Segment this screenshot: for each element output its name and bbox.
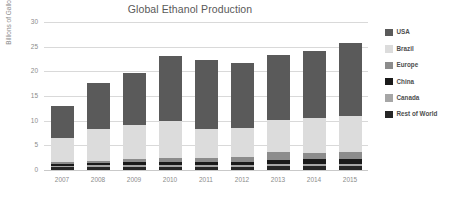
- bar-segment-rest-of-world[interactable]: [87, 167, 110, 170]
- bar-segment-brazil[interactable]: [51, 138, 74, 163]
- bar-segment-usa[interactable]: [51, 106, 74, 138]
- bar-segment-canada[interactable]: [267, 164, 290, 166]
- gridline-25: [44, 47, 368, 48]
- bar-2013[interactable]: [267, 55, 290, 170]
- bar-segment-canada[interactable]: [87, 165, 110, 166]
- x-tick-label-2008: 2008: [78, 176, 118, 183]
- x-tick-label-2015: 2015: [330, 176, 370, 183]
- bar-2010[interactable]: [159, 56, 182, 170]
- bar-segment-rest-of-world[interactable]: [267, 166, 290, 170]
- bar-segment-canada[interactable]: [339, 164, 362, 166]
- bar-segment-usa[interactable]: [123, 73, 146, 126]
- bar-segment-brazil[interactable]: [87, 129, 110, 161]
- y-tick-label-0: 0: [8, 167, 38, 174]
- legend-swatch-icon: [385, 62, 393, 70]
- legend-item-rest-of-world[interactable]: Rest of World: [385, 110, 457, 119]
- bar-segment-canada[interactable]: [231, 165, 254, 167]
- y-tick-label-20: 20: [8, 68, 38, 75]
- bar-segment-china[interactable]: [231, 162, 254, 164]
- bar-segment-rest-of-world[interactable]: [231, 167, 254, 170]
- bar-segment-usa[interactable]: [339, 43, 362, 116]
- legend-item-label: China: [397, 79, 415, 85]
- bar-segment-canada[interactable]: [159, 165, 182, 167]
- x-tick-label-2010: 2010: [150, 176, 190, 183]
- plot-area: [44, 22, 368, 170]
- bar-segment-rest-of-world[interactable]: [123, 167, 146, 170]
- chart-container: Global Ethanol Production Billions of Ga…: [0, 0, 457, 204]
- bar-2014[interactable]: [303, 51, 326, 170]
- bar-2007[interactable]: [51, 106, 74, 170]
- bar-segment-china[interactable]: [303, 159, 326, 163]
- bar-segment-china[interactable]: [267, 160, 290, 164]
- bar-2015[interactable]: [339, 43, 362, 170]
- legend-item-label: Europe: [397, 62, 419, 68]
- y-tick-label-5: 5: [8, 142, 38, 149]
- bar-segment-usa[interactable]: [303, 51, 326, 118]
- x-tick-label-2012: 2012: [222, 176, 262, 183]
- bar-segment-europe[interactable]: [195, 158, 218, 163]
- bar-segment-brazil[interactable]: [195, 129, 218, 158]
- bar-segment-usa[interactable]: [159, 56, 182, 122]
- x-tick-label-2013: 2013: [258, 176, 298, 183]
- bar-segment-canada[interactable]: [195, 165, 218, 167]
- bar-segment-europe[interactable]: [267, 152, 290, 159]
- y-tick-label-15: 15: [8, 93, 38, 100]
- bar-segment-europe[interactable]: [51, 162, 74, 164]
- bar-segment-canada[interactable]: [303, 164, 326, 166]
- legend-swatch-icon: [385, 94, 393, 102]
- bar-segment-europe[interactable]: [87, 161, 110, 163]
- y-tick-label-30: 30: [8, 19, 38, 26]
- bar-segment-rest-of-world[interactable]: [51, 167, 74, 170]
- bar-segment-brazil[interactable]: [303, 118, 326, 153]
- bar-segment-canada[interactable]: [51, 166, 74, 167]
- legend-swatch-icon: [385, 29, 393, 37]
- bar-segment-rest-of-world[interactable]: [159, 167, 182, 170]
- legend: USABrazilEuropeChinaCanadaRest of World: [385, 28, 457, 126]
- bar-segment-rest-of-world[interactable]: [339, 166, 362, 170]
- x-tick-label-2009: 2009: [114, 176, 154, 183]
- bar-segment-europe[interactable]: [231, 157, 254, 162]
- legend-item-label: Rest of World: [397, 111, 438, 117]
- bar-segment-brazil[interactable]: [267, 120, 290, 152]
- bar-segment-rest-of-world[interactable]: [195, 167, 218, 170]
- bar-segment-usa[interactable]: [267, 55, 290, 121]
- legend-item-label: USA: [397, 29, 410, 35]
- bar-segment-brazil[interactable]: [123, 125, 146, 159]
- bar-segment-europe[interactable]: [339, 152, 362, 159]
- bar-segment-usa[interactable]: [87, 83, 110, 129]
- legend-item-canada[interactable]: Canada: [385, 94, 457, 103]
- chart-title: Global Ethanol Production: [0, 3, 380, 15]
- bar-2012[interactable]: [231, 63, 254, 170]
- bar-segment-europe[interactable]: [159, 158, 182, 162]
- bar-segment-brazil[interactable]: [159, 121, 182, 158]
- bar-segment-china[interactable]: [51, 164, 74, 166]
- bar-2011[interactable]: [195, 60, 218, 170]
- bar-segment-brazil[interactable]: [231, 128, 254, 158]
- legend-item-usa[interactable]: USA: [385, 28, 457, 37]
- gridline-0: [44, 170, 368, 171]
- bar-2008[interactable]: [87, 83, 110, 170]
- bar-segment-china[interactable]: [339, 159, 362, 163]
- legend-item-europe[interactable]: Europe: [385, 61, 457, 70]
- bar-segment-usa[interactable]: [195, 60, 218, 129]
- bar-segment-europe[interactable]: [303, 153, 326, 160]
- legend-item-brazil[interactable]: Brazil: [385, 44, 457, 53]
- bar-segment-china[interactable]: [123, 162, 146, 164]
- bar-segment-rest-of-world[interactable]: [303, 166, 326, 170]
- bar-segment-europe[interactable]: [123, 159, 146, 162]
- x-tick-label-2011: 2011: [186, 176, 226, 183]
- bar-segment-brazil[interactable]: [339, 116, 362, 152]
- bar-segment-canada[interactable]: [123, 165, 146, 167]
- x-tick-label-2007: 2007: [42, 176, 82, 183]
- y-tick-label-25: 25: [8, 44, 38, 51]
- bar-segment-china[interactable]: [159, 162, 182, 164]
- legend-item-label: Brazil: [397, 46, 414, 52]
- bar-segment-usa[interactable]: [231, 63, 254, 128]
- legend-item-china[interactable]: China: [385, 77, 457, 86]
- gridline-30: [44, 22, 368, 23]
- bar-segment-china[interactable]: [87, 163, 110, 165]
- bar-2009[interactable]: [123, 73, 146, 170]
- bar-segment-china[interactable]: [195, 162, 218, 164]
- y-tick-label-10: 10: [8, 118, 38, 125]
- legend-item-label: Canada: [397, 95, 420, 101]
